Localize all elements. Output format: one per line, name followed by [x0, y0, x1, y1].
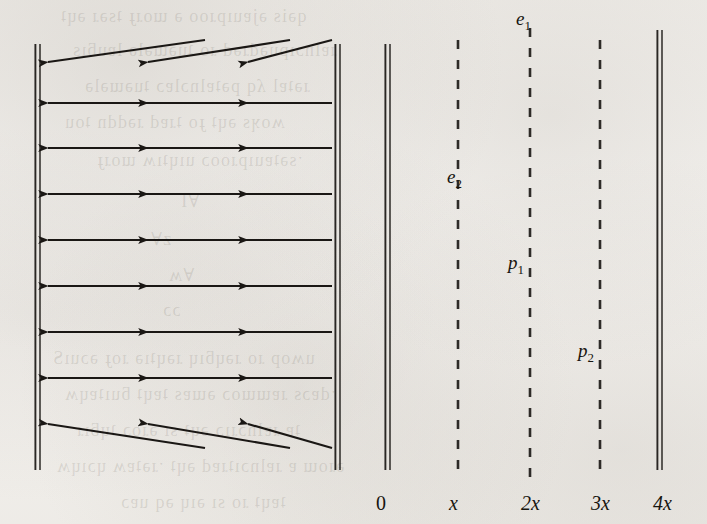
axis-tick-label-x: x	[449, 492, 458, 515]
label-p2-subscript: 2	[588, 350, 594, 365]
wall-inner-left	[335, 44, 340, 470]
dashed-grid-lines-group	[458, 28, 600, 480]
figure-vector-layer	[0, 0, 707, 524]
field-arrows-group	[48, 40, 332, 448]
wall-right	[657, 30, 662, 470]
label-p1-base: p	[508, 252, 518, 273]
label-p1-subscript: 1	[518, 262, 524, 277]
solid-wall-lines-group	[35, 30, 662, 470]
arrow-row-9-arrow-col-1	[48, 424, 205, 448]
arrow-row-1-arrow-col-3	[248, 40, 332, 62]
label-e2: e2	[447, 166, 462, 192]
arrow-row-9-arrow-col-3	[248, 424, 332, 448]
arrow-row-1-arrow-col-2	[148, 40, 290, 62]
wall-zero	[385, 44, 390, 470]
vector-field-figure: qəis əjɐuıpɹoo ə ɯoɹɟ ʇsəɹ əɥʇɹɐlnɔıpuəd…	[0, 0, 707, 524]
arrow-row-9-arrow-col-2	[148, 424, 290, 448]
label-p1: p1	[508, 252, 524, 278]
axis-tick-label-2x: 2x	[521, 492, 540, 515]
arrow-row-1-arrow-col-1	[48, 40, 205, 62]
axis-tick-label-4x: 4x	[653, 492, 672, 515]
label-p2: p2	[578, 340, 594, 366]
label-e1-subscript: 1	[524, 18, 530, 33]
label-p2-base: p	[578, 340, 588, 361]
label-e2-subscript: 2	[455, 176, 461, 191]
label-e1: e1	[516, 8, 531, 34]
wall-left	[35, 44, 40, 470]
axis-tick-label-0: 0	[376, 492, 386, 515]
axis-tick-label-3x: 3x	[591, 492, 610, 515]
